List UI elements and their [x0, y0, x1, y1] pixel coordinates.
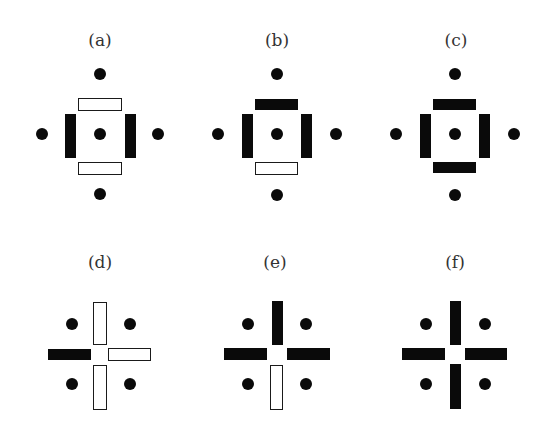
lattice-dot	[271, 189, 283, 201]
lattice-dot	[242, 318, 254, 330]
lattice-dot	[271, 128, 283, 140]
bond-left-filled	[224, 348, 267, 360]
lattice-dot	[390, 128, 402, 140]
bond-bottom-filled	[450, 364, 461, 409]
lattice-dot	[94, 128, 106, 140]
bond-top-open	[93, 302, 107, 345]
bond-bottom-filled	[433, 162, 476, 173]
bond-left-filled	[48, 349, 91, 360]
bond-left-filled	[242, 114, 253, 158]
lattice-dot	[66, 318, 78, 330]
bond-top-filled	[255, 99, 298, 110]
lattice-dot	[449, 189, 461, 201]
bond-right-filled	[125, 114, 136, 158]
lattice-dot	[479, 378, 491, 390]
lattice-dot	[420, 378, 432, 390]
panel-label: (e)	[263, 252, 286, 272]
lattice-dot	[66, 378, 78, 390]
bond-bottom-open	[255, 162, 298, 175]
lattice-dot	[94, 188, 106, 200]
lattice-dot	[420, 318, 432, 330]
panel-label: (c)	[445, 30, 468, 50]
panel-label: (d)	[88, 252, 112, 272]
lattice-dot	[300, 318, 312, 330]
bond-right-filled	[465, 348, 507, 360]
lattice-dot	[449, 128, 461, 140]
bond-bottom-open	[93, 365, 107, 410]
panel-label: (f)	[445, 252, 465, 272]
lattice-dot	[124, 378, 136, 390]
lattice-dot	[449, 68, 461, 80]
bond-left-filled	[65, 114, 76, 158]
bond-bottom-open	[78, 162, 122, 175]
panel-label: (b)	[265, 30, 289, 50]
lattice-dot	[212, 128, 224, 140]
bond-left-filled	[420, 114, 431, 158]
lattice-dot	[508, 128, 520, 140]
bond-bottom-open	[270, 365, 283, 410]
bond-right-filled	[287, 348, 330, 360]
lattice-dot	[124, 318, 136, 330]
bond-top-filled	[272, 301, 283, 345]
bond-right-filled	[301, 114, 312, 158]
lattice-dot	[242, 378, 254, 390]
lattice-dot	[300, 378, 312, 390]
lattice-dot	[94, 68, 106, 80]
bond-right-filled	[479, 114, 490, 158]
lattice-dot	[479, 318, 491, 330]
lattice-dot	[152, 128, 164, 140]
bond-top-filled	[433, 99, 476, 110]
bond-left-filled	[402, 348, 445, 360]
bond-right-open	[108, 348, 151, 361]
bond-top-filled	[450, 301, 461, 345]
panel-label: (a)	[88, 30, 111, 50]
lattice-dot	[330, 128, 342, 140]
lattice-dot	[36, 128, 48, 140]
figure-canvas: (a)(b)(c)(d)(e)(f)	[0, 0, 546, 435]
bond-top-open	[78, 98, 122, 111]
lattice-dot	[271, 68, 283, 80]
